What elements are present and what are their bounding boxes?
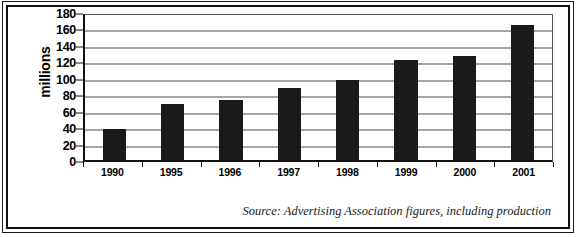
x-axis-tick-label: 2000 bbox=[436, 166, 495, 178]
y-axis-tick-mark bbox=[76, 96, 83, 97]
bar-slot bbox=[319, 15, 377, 160]
chart-figure: millions 020406080100120140160180 199019… bbox=[0, 0, 577, 237]
bar bbox=[336, 80, 359, 160]
y-axis-tick-label: 20 bbox=[63, 139, 76, 153]
y-axis-tick-mark bbox=[76, 30, 83, 31]
bar bbox=[219, 100, 242, 160]
bar bbox=[394, 60, 417, 160]
chart-plot-region: millions 020406080100120140160180 199019… bbox=[14, 14, 562, 174]
y-axis-tick-labels: 020406080100120140160180 bbox=[40, 14, 76, 162]
bar bbox=[278, 88, 301, 160]
y-axis-tick-mark bbox=[76, 112, 83, 113]
y-axis-tick-label: 120 bbox=[56, 56, 76, 70]
bar-series bbox=[85, 15, 552, 160]
source-note: Source: Advertising Association figures,… bbox=[0, 204, 551, 219]
x-axis-tick-label: 1997 bbox=[259, 166, 318, 178]
x-axis-tick-label: 1998 bbox=[318, 166, 377, 178]
y-axis-tick-label: 160 bbox=[56, 23, 76, 37]
bar bbox=[103, 129, 126, 160]
y-axis-tick-mark bbox=[76, 162, 83, 163]
x-axis-tick-label: 1999 bbox=[377, 166, 436, 178]
bar-slot bbox=[202, 15, 260, 160]
y-axis-tick-mark bbox=[76, 63, 83, 64]
y-axis-tick-label: 140 bbox=[56, 40, 76, 54]
y-axis-tick-mark bbox=[76, 79, 83, 80]
bar-slot bbox=[494, 15, 552, 160]
y-axis-tick-mark bbox=[76, 145, 83, 146]
bar-slot bbox=[143, 15, 201, 160]
y-axis-tick-label: 100 bbox=[56, 73, 76, 87]
y-axis-tick-mark bbox=[76, 46, 83, 47]
x-axis-tick-label: 1996 bbox=[201, 166, 260, 178]
x-axis-tick-label: 2001 bbox=[494, 166, 553, 178]
bar bbox=[453, 56, 476, 160]
x-axis-tick-mark bbox=[553, 162, 554, 167]
y-axis-tick-label: 180 bbox=[56, 7, 76, 21]
y-axis-tick-label: 80 bbox=[63, 89, 76, 103]
y-axis-tick-mark bbox=[76, 14, 83, 15]
bar bbox=[161, 104, 184, 160]
y-axis-tick-label: 40 bbox=[63, 122, 76, 136]
bar-slot bbox=[377, 15, 435, 160]
x-axis-tick-labels: 19901995199619971998199920002001 bbox=[83, 166, 553, 178]
x-axis-tick-label: 1990 bbox=[83, 166, 142, 178]
bar-slot bbox=[435, 15, 493, 160]
bar bbox=[511, 25, 534, 160]
x-axis-tick-label: 1995 bbox=[142, 166, 201, 178]
bar-slot bbox=[85, 15, 143, 160]
y-axis-tick-label: 60 bbox=[63, 106, 76, 120]
y-axis-tick-marks bbox=[76, 14, 83, 162]
y-axis-tick-mark bbox=[76, 129, 83, 130]
y-axis-tick-label: 0 bbox=[69, 155, 76, 169]
plot-area bbox=[83, 14, 553, 162]
bar-slot bbox=[260, 15, 318, 160]
